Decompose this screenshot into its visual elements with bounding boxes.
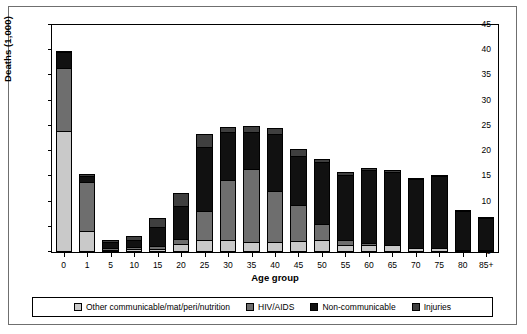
bar-segment [173,239,189,244]
x-tick-mark [369,253,370,257]
bar-segment [455,211,471,250]
bar-segment [126,240,142,247]
bar-segment [290,241,306,252]
bar-segment [314,240,330,252]
bar-segment [126,247,142,250]
bar-segment [220,127,236,132]
bar-segment [478,217,494,218]
x-tick-label: 5 [108,260,113,270]
x-tick-label: 65 [388,260,397,270]
bar-segment [149,218,165,228]
x-tick-mark [111,253,112,257]
bar-segment [478,218,494,250]
x-tick-mark [205,253,206,257]
bar-segment [220,240,236,252]
bar-segment [149,246,165,249]
bar-segment [337,240,353,245]
bar-segment [267,191,283,242]
legend-item[interactable]: Injuries [412,302,451,312]
bar-segment [243,169,259,242]
x-tick-label: 1 [85,260,90,270]
bar-segment [431,176,447,248]
x-tick-label: 40 [270,260,279,270]
x-tick-label: 45 [294,260,303,270]
legend-item[interactable]: Other communicable/mat/peri/nutrition [74,302,230,312]
bar-segment [408,178,424,180]
x-tick-mark [275,253,276,257]
bar-segment [408,248,424,252]
x-tick-label: 80 [458,260,467,270]
x-axis-label: Age group [51,272,499,283]
legend-item[interactable]: HIV/AIDS [246,302,294,312]
bar-segment [149,249,165,252]
x-tick-mark [228,253,229,257]
y-axis-label-area: Deaths (1,000) [14,24,34,253]
legend-label: HIV/AIDS [258,302,294,312]
bar-segment [196,211,212,240]
x-tick-mark [87,253,88,257]
bar-segment [56,131,72,252]
x-tick-label: 20 [176,260,185,270]
bar-segment [290,149,306,156]
bar-segment [431,248,447,252]
bar-segment [79,176,95,182]
bar-segment [337,172,353,175]
bar-segment [384,245,400,252]
bar-segment [361,245,377,252]
bar-segment [56,51,72,52]
x-tick-label: 25 [200,260,209,270]
bar-segment [361,168,377,171]
legend-label: Other communicable/mat/peri/nutrition [86,302,230,312]
x-tick-mark [181,253,182,257]
x-tick-label: 30 [223,260,232,270]
bar-segment [384,170,400,172]
x-tick-mark [134,253,135,257]
bar-segment [126,249,142,252]
bar-series-layer [52,25,498,252]
x-tick-label: 0 [61,260,66,270]
bar-segment [314,224,330,241]
bar-segment [196,147,212,212]
bar-segment [314,162,330,224]
legend-swatch-icon [412,303,420,311]
y-axis-label: Deaths (1,000) [2,0,13,119]
x-tick-mark [486,253,487,257]
bar-segment [243,126,259,132]
bar-segment [267,128,283,135]
bar-segment [361,243,377,245]
bar-segment [455,210,471,211]
bar-segment [173,206,189,239]
bar-segment [408,179,424,248]
bar-segment [56,52,72,68]
x-tick-mark [463,253,464,257]
x-tick-label: 60 [364,260,373,270]
bar-segment [431,175,447,176]
bar-segment [267,134,283,191]
bar-segment [102,248,118,250]
bar-segment [361,170,377,243]
bar-segment [149,227,165,246]
legend-label: Injuries [424,302,451,312]
x-tick-mark [158,253,159,257]
bar-segment [196,134,212,147]
x-tick-label: 75 [435,260,444,270]
bar-segment [102,242,118,248]
legend-item[interactable]: Non-communicable [310,302,395,312]
bar-segment [384,172,400,245]
bar-segment [220,132,236,180]
x-tick-mark [439,253,440,257]
bar-segment [290,156,306,205]
bar-segment [173,244,189,252]
bar-segment [196,240,212,252]
chart-legend: Other communicable/mat/peri/nutritionHIV… [32,297,493,317]
x-tick-mark [64,253,65,257]
bar-segment [56,68,72,131]
x-tick-label: 10 [129,260,138,270]
bar-segment [102,250,118,252]
bar-segment [337,175,353,240]
bar-segment [79,174,95,176]
x-tick-label: 85+ [479,260,493,270]
plot-area: 051015202530354045 [51,24,499,253]
bar-segment [79,231,95,252]
x-tick-mark [322,253,323,257]
